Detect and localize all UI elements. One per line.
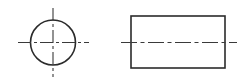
technical-drawing-canvas [0, 0, 245, 83]
side-view [121, 16, 237, 68]
drawing-sheet [0, 0, 245, 83]
front-view [18, 8, 89, 77]
